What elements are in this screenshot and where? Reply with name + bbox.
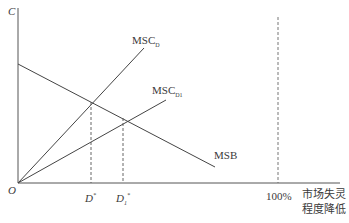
- d1-star-sub: 1: [124, 200, 127, 206]
- msc-d1-label: MSCD1: [152, 85, 183, 98]
- d1-star-main: D: [116, 192, 124, 204]
- x-axis-label-line1: 市场失灵: [302, 188, 346, 202]
- msc-d1-label-main: MSC: [152, 84, 175, 96]
- msc-d-curve: [18, 48, 144, 183]
- y-axis-label: C: [8, 6, 15, 17]
- x-axis-label-line2: 程度降低: [302, 203, 346, 217]
- d-star-label: D*: [85, 192, 96, 204]
- msc-d1-label-sub: D1: [175, 92, 182, 98]
- diagram-canvas: [0, 0, 349, 223]
- hundred-percent-label: 100%: [266, 191, 292, 202]
- d-star-sup: *: [93, 192, 96, 198]
- msc-d1-curve: [18, 100, 166, 183]
- msb-label: MSB: [214, 150, 237, 161]
- msc-d-label-sub: D: [155, 42, 159, 48]
- msc-d-label-main: MSC: [132, 34, 155, 46]
- origin-label: O: [8, 185, 16, 196]
- d1-star-label: D1*: [116, 192, 130, 206]
- d1-star-sup: *: [127, 192, 130, 198]
- d-star-main: D: [85, 192, 93, 204]
- msc-d-label: MSCD: [132, 35, 160, 48]
